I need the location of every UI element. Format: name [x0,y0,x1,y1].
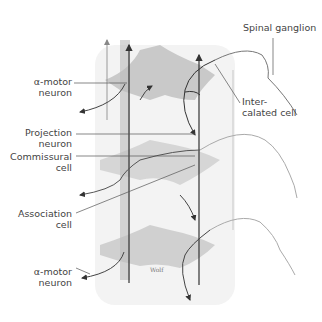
label-line: neuron [0,277,72,288]
label-commissural-cell: Commissural cell [0,151,72,173]
label-line: neuron [10,87,72,98]
label-association-cell: Association cell [0,208,72,230]
label-alpha-motor-neuron-top: α-motor neuron [10,76,72,98]
label-spinal-ganglion: Spinal ganglion [243,22,316,33]
label-line: cell [0,162,72,173]
label-line: α-motor [0,266,72,277]
artist-signature: Wolf [150,264,164,275]
label-line: Projection [0,127,72,138]
label-line: Inter- [242,96,296,107]
label-line: cell [0,219,72,230]
label-projection-neuron: Projection neuron [0,127,72,149]
label-line: calated cell [242,107,296,118]
spinal-cord-body [95,40,235,305]
label-line: α-motor [10,76,72,87]
label-line: Commissural [0,151,72,162]
leader-alpha-motor-bottom [76,268,90,274]
label-line: Association [0,208,72,219]
label-intercalated-cell: Inter- calated cell [242,96,296,118]
label-alpha-motor-neuron-bottom: α-motor neuron [0,266,72,288]
label-line: neuron [0,138,72,149]
